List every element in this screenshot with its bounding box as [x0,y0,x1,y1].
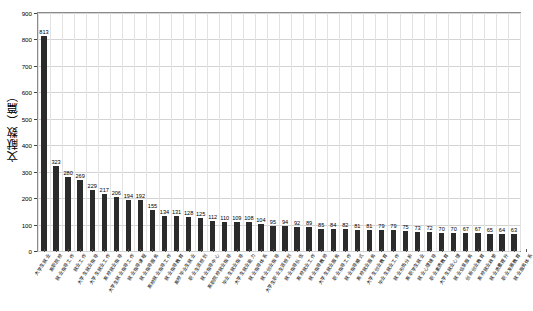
bar [343,229,348,251]
bar-rect [306,227,311,251]
bar-value-label: 217 [100,187,109,193]
bar-value-label: 79 [378,223,384,229]
bar-value-label: 194 [124,193,133,199]
bar-value-label: 67 [463,226,469,232]
x-axis-tick-mark [177,249,178,252]
x-axis-tick-mark [418,249,419,252]
x-axis-tick-mark [152,249,153,252]
bar-rect [77,180,82,251]
bar-value-label: 92 [294,220,300,226]
bar-rect [294,227,299,251]
x-axis-tick-mark [430,249,431,252]
bar-rect [391,230,396,251]
x-axis-tick-mark [261,249,262,252]
bar-rect [186,217,191,251]
x-axis-tick-mark [490,249,491,252]
x-axis-tick-mark [56,249,57,252]
x-axis-tick-mark [502,249,503,252]
bar-rect [355,230,360,251]
x-axis-tick-mark [345,249,346,252]
bar-value-label: 108 [244,215,253,221]
y-axis-title-text: 文献数（篇） [5,90,21,162]
y-axis-tick-label: 400 [6,142,32,149]
bar-value-label: 112 [208,214,217,220]
bar [126,200,131,251]
bar-value-label: 280 [63,170,72,176]
bar [210,221,215,251]
bar-rect [102,194,107,251]
y-axis-tick-label: 800 [6,36,32,43]
bar-value-label: 89 [306,220,312,226]
x-axis-tick-label: 大学生就业 [34,253,51,277]
x-axis-tick-mark [309,249,310,252]
x-axis-tick-mark [514,249,515,252]
bar-rect [367,230,372,251]
bar-value-label: 95 [270,219,276,225]
bar [174,216,179,251]
y-axis-tick-label: 600 [6,89,32,96]
x-axis-tick-mark [249,249,250,252]
bar-rect [53,166,58,251]
bar [391,230,396,251]
bar-rect [270,226,275,251]
y-axis-tick-label: 900 [6,10,32,17]
x-axis-tick-mark [104,249,105,252]
bar-rect [198,218,203,251]
bar-value-label: 206 [112,190,121,196]
x-axis-tick-mark [201,249,202,252]
x-axis-tick-mark [165,249,166,252]
bar-rect [282,226,287,251]
bar [331,229,336,251]
x-axis-tick-mark [442,249,443,252]
y-axis-tick-label: 500 [6,115,32,122]
bar-value-label: 85 [318,222,324,228]
x-axis-tick-mark [44,249,45,252]
bar-value-label: 192 [136,193,145,199]
y-axis-tick-label: 700 [6,62,32,69]
x-axis-tick-mark [92,249,93,252]
bar [379,230,384,251]
x-axis-tick-mark [189,249,190,252]
x-axis-tick-mark [478,249,479,252]
x-axis-ticks: 大学生就业高职院校就业指导工作就业工作大学生就业指导大学生就业工作高校就业指导大… [38,253,520,311]
bar-value-label: 72 [427,225,433,231]
x-axis-tick-mark [454,249,455,252]
bar-value-label: 110 [220,215,229,221]
bar-value-label: 125 [196,211,205,217]
bar-series: 8133232802692292172061941921551341311281… [38,13,520,251]
x-axis-tick-mark [526,249,527,252]
bar-value-label: 128 [184,210,193,216]
bar-rect [234,222,239,251]
bar [318,229,323,251]
x-axis-tick-mark [116,249,117,252]
bar-value-label: 155 [148,203,157,209]
bar [150,210,155,251]
bar-value-label: 63 [511,227,517,233]
bar-rect [65,177,70,251]
bar [246,222,251,251]
bar-value-label: 104 [256,217,265,223]
bar-rect [379,230,384,251]
bar [270,226,275,251]
bar [41,36,46,251]
bar-value-label: 813 [39,29,48,35]
bar-rect [331,229,336,251]
bar-value-label: 94 [282,219,288,225]
y-axis-tick-mark [34,145,37,146]
bar [102,194,107,251]
y-axis-tick-label: 200 [6,195,32,202]
y-axis-tick-mark [34,198,37,199]
bar-rect [41,36,46,251]
grid-line-vertical [520,13,521,251]
y-axis-tick-mark [34,92,37,93]
x-axis-tick-mark [333,249,334,252]
bar-value-label: 70 [439,226,445,232]
bar-value-label: 82 [342,222,348,228]
y-axis-tick-mark [34,39,37,40]
bar [367,230,372,251]
bar-rect [90,190,95,251]
bar-rect [174,216,179,251]
y-axis-tick-mark [34,172,37,173]
bar-value-label: 81 [354,223,360,229]
